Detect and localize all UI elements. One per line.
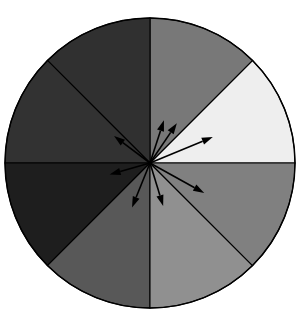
sector-disk-chart (0, 0, 299, 320)
figure-root (0, 0, 299, 320)
